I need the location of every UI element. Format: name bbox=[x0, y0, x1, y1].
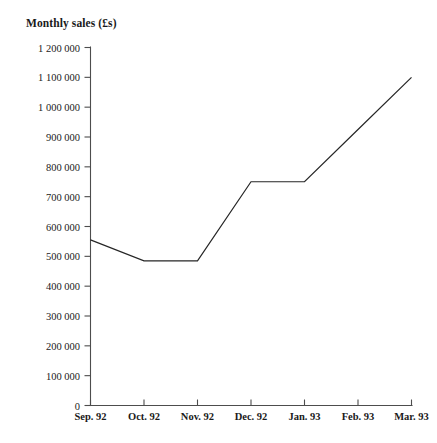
x-axis-tick-label: Sep. 92 bbox=[74, 411, 106, 422]
axes bbox=[91, 47, 413, 406]
y-axis-tick-label: 100 000 bbox=[10, 370, 80, 381]
y-axis-tick-label: 200 000 bbox=[10, 340, 80, 351]
x-axis-tick-label: Feb. 93 bbox=[342, 411, 375, 422]
y-axis-tick-label: 1 000 000 bbox=[10, 102, 80, 113]
x-axis-tick-label: Oct. 92 bbox=[128, 411, 160, 422]
chart-container: Monthly sales (£s) 0100 000200 000300 00… bbox=[0, 0, 437, 443]
x-axis-tick-label: Jan. 93 bbox=[288, 411, 320, 422]
y-axis-tick-label: 400 000 bbox=[10, 281, 80, 292]
y-axis-tick-label: 900 000 bbox=[10, 132, 80, 143]
y-axis-tick-label: 1 200 000 bbox=[10, 42, 80, 53]
y-axis-tick-label: 800 000 bbox=[10, 161, 80, 172]
sales-line-series bbox=[91, 77, 412, 260]
x-axis-tick-label: Dec. 92 bbox=[235, 411, 268, 422]
y-axis-tick-label: 700 000 bbox=[10, 191, 80, 202]
y-axis-tick-label: 600 000 bbox=[10, 221, 80, 232]
y-axis-tick-label: 0 bbox=[10, 400, 80, 411]
y-axis-tick-label: 1 100 000 bbox=[10, 72, 80, 83]
x-axis-tick-label: Mar. 93 bbox=[394, 411, 429, 422]
y-axis-tick-label: 500 000 bbox=[10, 251, 80, 262]
y-axis-tick-label: 300 000 bbox=[10, 311, 80, 322]
x-axis-tick-label: Nov. 92 bbox=[181, 411, 214, 422]
